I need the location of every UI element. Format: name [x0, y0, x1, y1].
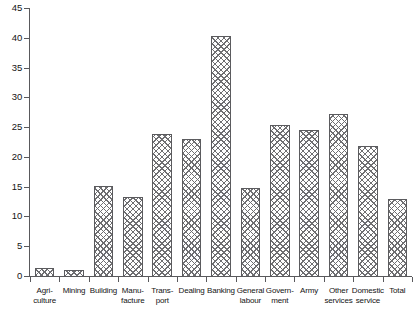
- bar: [211, 36, 231, 277]
- bar: [182, 139, 202, 277]
- x-axis-label: General labour: [234, 286, 267, 305]
- x-axis-tick: [294, 277, 295, 282]
- x-axis-label: Agri- culture: [28, 286, 61, 305]
- y-axis-tick-label: 40: [0, 33, 22, 43]
- x-axis-line: [29, 276, 412, 277]
- x-axis-tick: [353, 277, 354, 282]
- x-axis-label: Army: [292, 286, 325, 296]
- x-axis-label: Mining: [57, 286, 90, 296]
- x-axis-label: Banking: [204, 286, 237, 296]
- y-axis-tick-label: 45: [0, 3, 22, 13]
- bar: [152, 134, 172, 277]
- x-axis-label: Domestic service: [351, 286, 384, 305]
- y-axis-tick-label: 30: [0, 92, 22, 102]
- bar: [94, 186, 114, 277]
- x-axis-label: Other services: [322, 286, 355, 305]
- y-axis-tick-label: 35: [0, 63, 22, 73]
- plot-area: [30, 8, 412, 277]
- x-axis-label: Dealing: [175, 286, 208, 296]
- x-axis-tick: [236, 277, 237, 282]
- x-axis-tick: [383, 277, 384, 282]
- y-axis-tick-label: 25: [0, 122, 22, 132]
- x-axis-tick: [324, 277, 325, 282]
- bar: [270, 125, 290, 277]
- x-axis-label: Building: [87, 286, 120, 296]
- y-axis-tick-label: 15: [0, 182, 22, 192]
- bar: [358, 146, 378, 277]
- bar: [241, 188, 261, 277]
- y-axis-tick-label: 10: [0, 211, 22, 221]
- bar: [123, 197, 143, 277]
- x-axis-tick: [177, 277, 178, 282]
- bar-chart: 051015202530354045 Agri- cultureMiningBu…: [0, 0, 416, 317]
- bar: [299, 130, 319, 277]
- x-axis-label: Govern- ment: [263, 286, 296, 305]
- y-axis-tick-label: 0: [0, 271, 22, 281]
- bar: [388, 199, 408, 277]
- x-axis-label: Total: [381, 286, 414, 296]
- bar: [329, 114, 349, 277]
- x-axis-tick: [89, 277, 90, 282]
- x-axis-label: Manu- facture: [116, 286, 149, 305]
- x-axis-tick: [30, 277, 31, 282]
- x-axis-tick: [118, 277, 119, 282]
- y-axis-tick-label: 20: [0, 152, 22, 162]
- x-axis-tick: [412, 277, 413, 282]
- y-axis-tick-label: 5: [0, 241, 22, 251]
- x-axis-tick: [148, 277, 149, 282]
- x-axis-tick: [206, 277, 207, 282]
- x-axis-label: Trans- port: [146, 286, 179, 305]
- x-axis-tick: [265, 277, 266, 282]
- x-axis-tick: [59, 277, 60, 282]
